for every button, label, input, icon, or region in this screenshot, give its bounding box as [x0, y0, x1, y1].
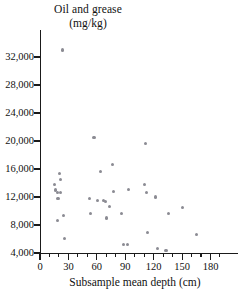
scatter-point — [143, 183, 146, 186]
scatter-point — [56, 219, 59, 222]
scatter-point — [56, 191, 59, 194]
scatter-point — [104, 200, 107, 203]
scatter-point — [126, 243, 129, 246]
scatter-point — [111, 163, 114, 166]
scatter-point — [88, 197, 91, 200]
scatter-point — [56, 197, 59, 200]
scatter-point — [105, 216, 108, 219]
scatter-point — [62, 214, 65, 217]
scatter-point — [167, 212, 170, 215]
scatter-point — [164, 249, 167, 252]
scatter-point — [181, 206, 184, 209]
scatter-point — [59, 178, 62, 181]
scatter-point — [108, 205, 111, 208]
x-axis-title: Subsample mean depth (cm) — [30, 276, 240, 288]
scatter-point — [92, 136, 95, 139]
scatter-point — [145, 191, 148, 194]
scatter-chart-figure: Oil and grease (mg/kg) 4,0008,00012,0001… — [0, 0, 247, 295]
scatter-point — [127, 188, 130, 191]
scatter-point — [59, 191, 62, 194]
scatter-point — [146, 231, 149, 234]
scatter-point — [61, 48, 64, 51]
scatter-point — [58, 172, 61, 175]
scatter-point — [112, 190, 115, 193]
scatter-point — [120, 212, 123, 215]
scatter-points-layer — [0, 0, 247, 295]
scatter-point — [89, 212, 92, 215]
scatter-point — [156, 247, 159, 250]
scatter-point — [122, 243, 125, 246]
scatter-point — [154, 195, 157, 198]
scatter-point — [53, 183, 56, 186]
scatter-point — [144, 142, 147, 145]
scatter-point — [63, 237, 66, 240]
scatter-point — [99, 170, 102, 173]
scatter-point — [96, 199, 99, 202]
scatter-point — [195, 233, 198, 236]
